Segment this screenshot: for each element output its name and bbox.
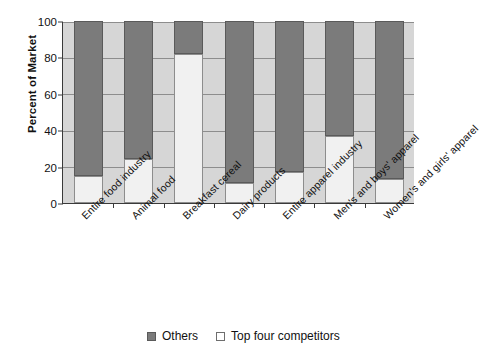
- y-axis-tick-mark: [58, 131, 63, 132]
- legend-entry-top-four-competitors: Top four competitors: [216, 330, 340, 342]
- bar-entire-food-industry: [74, 21, 103, 203]
- legend-swatch-top-four-competitors: [216, 332, 225, 341]
- y-axis-tick-label: 40: [44, 125, 57, 137]
- x-axis-tick-mark: [314, 203, 315, 208]
- legend-label-top-four-competitors: Top four competitors: [231, 330, 340, 342]
- y-axis-tick-label: 0: [51, 198, 57, 210]
- bar-segment-others: [124, 21, 153, 159]
- legend-swatch-others: [147, 332, 156, 341]
- x-axis-tick-mark: [214, 203, 215, 208]
- x-axis-tick-mark: [365, 203, 366, 208]
- x-axis-tick-mark: [164, 203, 165, 208]
- legend-label-others: Others: [162, 330, 198, 342]
- x-axis-tick-mark: [113, 203, 114, 208]
- y-axis-tick-label: 60: [44, 89, 57, 101]
- chart-legend: Others Top four competitors: [147, 330, 340, 342]
- bar-segment-others: [174, 21, 203, 54]
- y-axis-title: Percent of Market: [26, 4, 38, 164]
- y-axis-tick-mark: [58, 167, 63, 168]
- y-axis-tick-mark: [58, 94, 63, 95]
- bar-segment-others: [325, 21, 354, 136]
- y-axis-tick-mark: [58, 22, 63, 23]
- y-axis-tick-mark: [58, 204, 63, 205]
- y-axis-tick-mark: [58, 58, 63, 59]
- bar-segment-others: [275, 21, 304, 172]
- bar-segment-others: [225, 21, 254, 183]
- y-axis-tick-label: 100: [38, 16, 57, 28]
- legend-entry-others: Others: [147, 330, 198, 342]
- y-axis-tick-label: 80: [44, 52, 57, 64]
- bar-segment-top-four-competitors: [174, 54, 203, 203]
- x-axis-tick-mark: [264, 203, 265, 208]
- bar-segment-others: [74, 21, 103, 176]
- bar-breakfast-cereal: [174, 21, 203, 203]
- y-axis-tick-label: 20: [44, 162, 57, 174]
